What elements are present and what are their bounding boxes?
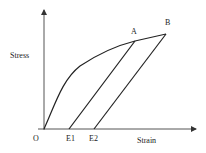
point-e2-label: E2: [89, 134, 98, 143]
y-axis-label: Stress: [10, 51, 29, 60]
x-axis-label: Strain: [137, 136, 156, 145]
point-b-label: B: [165, 18, 170, 27]
origin-label: O: [33, 134, 39, 143]
point-a-label: A: [131, 27, 137, 36]
stress-strain-diagram: [0, 0, 206, 153]
unloading-line-a-e1: [69, 41, 135, 129]
point-e1-label: E1: [66, 134, 75, 143]
